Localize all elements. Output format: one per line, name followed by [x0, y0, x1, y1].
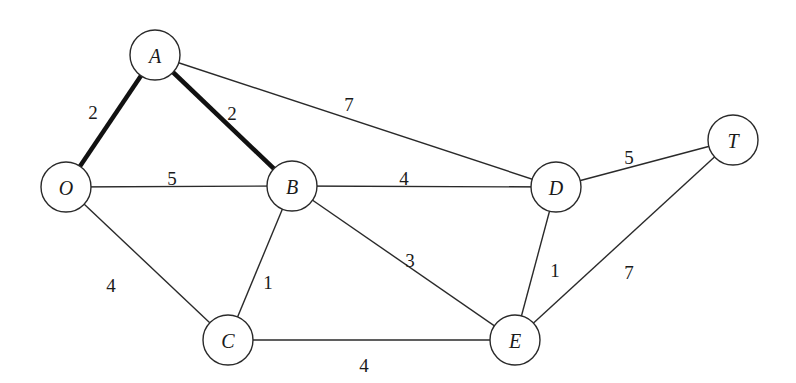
node-label: E	[508, 330, 521, 352]
edge-a-b	[155, 55, 292, 186]
node-label: A	[147, 45, 162, 67]
edge-weight-label: 3	[405, 250, 415, 271]
edge-b-e	[292, 186, 515, 340]
edge-b-d	[292, 186, 556, 187]
node-label: B	[286, 176, 298, 198]
edge-weight-label: 2	[88, 102, 98, 123]
node-o: O	[41, 162, 91, 212]
node-label: T	[727, 130, 740, 152]
nodes-layer: AOBDTCE	[41, 30, 758, 365]
node-e: E	[490, 315, 540, 365]
edge-weight-label: 1	[550, 260, 560, 281]
node-d: D	[531, 162, 581, 212]
edge-weight-label: 4	[399, 168, 409, 189]
edges-layer	[66, 55, 733, 340]
edge-a-d	[155, 55, 556, 187]
node-label: C	[221, 330, 235, 352]
edge-weight-label: 1	[263, 272, 273, 293]
node-b: B	[267, 161, 317, 211]
node-t: T	[708, 115, 758, 165]
edge-weight-label: 5	[167, 168, 177, 189]
node-a: A	[130, 30, 180, 80]
edge-weight-label: 2	[227, 103, 237, 124]
node-c: C	[203, 315, 253, 365]
edge-weight-label: 7	[344, 94, 354, 115]
node-label: O	[59, 177, 73, 199]
edge-weight-label: 4	[359, 355, 369, 376]
edge-weight-label: 5	[624, 147, 634, 168]
edge-o-b	[66, 186, 292, 187]
edge-o-c	[66, 187, 228, 340]
graph-canvas: 227545413174 AOBDTCE	[0, 0, 796, 383]
node-label: D	[548, 177, 564, 199]
edge-weight-label: 7	[624, 262, 634, 283]
edge-weight-label: 4	[106, 275, 116, 296]
